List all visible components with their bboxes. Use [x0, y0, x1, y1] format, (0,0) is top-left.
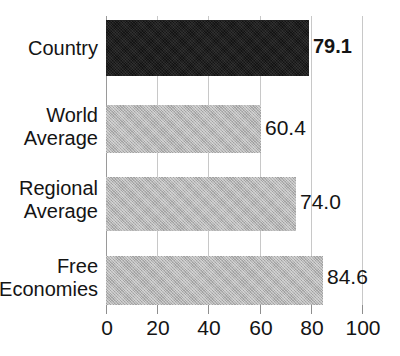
tick-label-80: 80 [300, 316, 323, 340]
category-label-regional-average: Regional Average [19, 177, 98, 223]
chart-title-cropped [0, 0, 400, 13]
plot-area [106, 16, 362, 305]
value-label-country: 79.1 [313, 35, 352, 58]
tick-label-100: 100 [345, 316, 380, 340]
bar-free-economies [106, 256, 323, 305]
tick-mark-20 [157, 305, 158, 314]
tick-mark-80 [311, 305, 312, 314]
category-label-world-average: World Average [24, 104, 98, 150]
bar-country [106, 20, 309, 76]
value-label-free-economies: 84.6 [327, 265, 368, 289]
bar-world-average [106, 105, 261, 153]
value-label-world-average: 60.4 [265, 116, 306, 140]
value-label-regional-average: 74.0 [300, 190, 341, 214]
tick-label-40: 40 [197, 316, 220, 340]
bar-chart: Country World Average Regional Average F… [0, 0, 400, 356]
tick-mark-40 [208, 305, 209, 314]
tick-label-60: 60 [249, 316, 272, 340]
category-label-free-economies: Free Economies [0, 255, 98, 301]
tick-label-20: 20 [146, 316, 169, 340]
gridline-100 [362, 16, 363, 305]
tick-mark-60 [260, 305, 261, 314]
tick-label-0: 0 [101, 316, 113, 340]
tick-mark-100 [362, 305, 363, 314]
bar-regional-average [106, 177, 296, 231]
tick-mark-0 [106, 305, 107, 314]
category-label-country: Country [28, 37, 98, 60]
